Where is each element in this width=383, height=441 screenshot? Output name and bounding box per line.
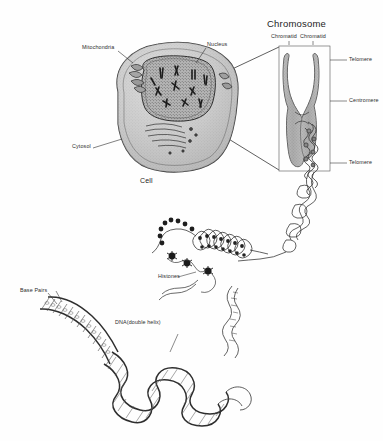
chromatin-fiber (283, 170, 317, 252)
cell-panel-caption: Cell (140, 177, 153, 184)
label-telomere-top: Telomere (349, 57, 372, 62)
dna-double-helix (104, 334, 251, 426)
chromosome-panel-title: Chromosome (267, 19, 326, 29)
label-nucleus: Nucleus (207, 42, 227, 47)
diagram-artwork (0, 0, 383, 441)
label-centromere: Centromere (349, 98, 379, 103)
label-chromatid-right: Chromatid (300, 34, 326, 39)
cell-illustration (117, 42, 238, 172)
histone-particles (167, 251, 216, 292)
chromosome-illustration (279, 46, 330, 195)
label-telomere-bottom: Telomere (349, 160, 372, 165)
cell-to-dna-diagram: Chromosome Chromatid Chromatid Telomere … (0, 0, 383, 441)
linker-dna-strand (159, 280, 198, 300)
label-base-pairs: Base Pairs (20, 288, 47, 293)
label-cytosol: Cytosol (72, 144, 91, 149)
solenoid-fiber (193, 229, 286, 261)
helix-right-segment (222, 286, 240, 358)
beads-on-a-string (152, 218, 216, 293)
label-mitochondria: Mitochondria (82, 45, 114, 50)
label-histones: Histones (158, 274, 180, 279)
label-dna-double-helix: DNA(double helix) (115, 320, 161, 325)
label-chromatid-left: Chromatid (271, 34, 297, 39)
dna-ladder (40, 291, 118, 365)
